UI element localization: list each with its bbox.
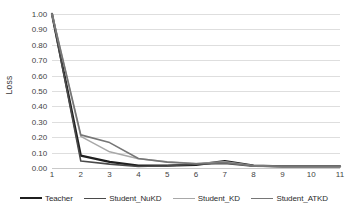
y-tick-label: 0.90 [32, 25, 47, 34]
x-tick-label: 10 [307, 170, 316, 179]
series-lines [52, 14, 340, 168]
x-axis-tick-labels: 1234567891011 [52, 170, 340, 184]
legend-label: Student_NuKD [109, 194, 161, 203]
y-axis-tick-labels: 0.000.100.200.300.400.500.600.700.800.90… [18, 14, 50, 168]
legend-swatch-icon [20, 197, 42, 199]
y-tick-label: 0.60 [32, 71, 47, 80]
loss-line-chart: Loss 0.000.100.200.300.400.500.600.700.8… [0, 0, 346, 213]
x-tick-label: 6 [194, 170, 198, 179]
legend-item[interactable]: Student_KD [173, 194, 240, 203]
y-tick-label: 0.80 [32, 40, 47, 49]
legend-swatch-icon [84, 198, 106, 199]
y-axis-title: Loss [0, 0, 18, 170]
legend-item[interactable]: Student_ATKD [251, 194, 328, 203]
x-tick-label: 4 [136, 170, 140, 179]
y-tick-label: 0.40 [32, 102, 47, 111]
gridline [52, 168, 340, 169]
y-tick-label: 0.50 [32, 87, 47, 96]
y-tick-label: 0.20 [32, 133, 47, 142]
series-line [52, 14, 340, 166]
y-axis-title-label: Loss [4, 76, 14, 95]
plot-area [52, 14, 340, 168]
x-tick-label: 1 [50, 170, 54, 179]
legend-swatch-icon [251, 198, 273, 199]
y-tick-label: 0.10 [32, 148, 47, 157]
x-tick-label: 7 [223, 170, 227, 179]
legend-label: Student_KD [198, 194, 240, 203]
x-tick-label: 3 [107, 170, 111, 179]
x-tick-label: 8 [251, 170, 255, 179]
x-tick-label: 9 [280, 170, 284, 179]
legend-label: Student_ATKD [276, 194, 328, 203]
x-tick-label: 2 [79, 170, 83, 179]
legend-item[interactable]: Teacher [20, 194, 73, 203]
chart-legend: TeacherStudent_NuKDStudent_KDStudent_ATK… [14, 190, 334, 206]
legend-swatch-icon [173, 198, 195, 199]
legend-label: Teacher [45, 194, 73, 203]
x-tick-label: 11 [336, 170, 344, 179]
y-tick-label: 0.70 [32, 56, 47, 65]
legend-item[interactable]: Student_NuKD [84, 194, 161, 203]
y-tick-label: 1.00 [32, 10, 47, 19]
y-tick-label: 0.30 [32, 117, 47, 126]
y-tick-label: 0.00 [32, 164, 47, 173]
x-tick-label: 5 [165, 170, 169, 179]
